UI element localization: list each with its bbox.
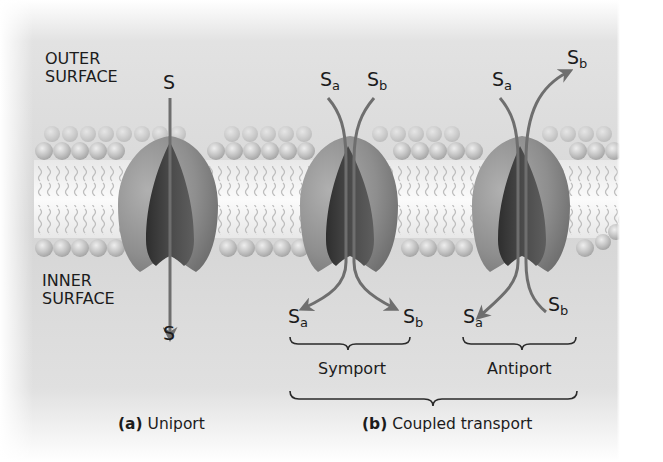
membrane-transport-diagram: OUTER SURFACE INNER SURFACE S S Sa Sb Sa…: [0, 0, 663, 462]
antiport-substrate-a-top: Sa: [492, 68, 512, 93]
uniport-caption-letter: (a): [118, 415, 143, 433]
outer-label-line1: OUTER: [45, 50, 118, 68]
symport-substrate-b-bottom: Sb: [403, 305, 423, 330]
antiport-substrate-b-bottom: Sb: [548, 293, 568, 318]
coupled-caption-letter: (b): [362, 415, 387, 433]
outer-label-line2: SURFACE: [45, 68, 118, 86]
symport-label: Symport: [318, 360, 386, 378]
inner-label-line1: INNER: [42, 272, 115, 290]
coupled-caption-text: Coupled transport: [387, 415, 532, 433]
uniport-substrate-top: S: [163, 71, 175, 93]
inner-label-line2: SURFACE: [42, 290, 115, 308]
symport-substrate-b-top: Sb: [367, 68, 387, 93]
uniport-caption-text: Uniport: [143, 415, 205, 433]
outer-surface-label: OUTER SURFACE: [45, 50, 118, 86]
coupled-transport-caption: (b) Coupled transport: [362, 415, 532, 433]
symport-substrate-a-top: Sa: [320, 68, 340, 93]
antiport-substrate-b-top: Sb: [567, 46, 587, 71]
antiport-label: Antiport: [487, 360, 552, 378]
symport-substrate-a-bottom: Sa: [288, 305, 308, 330]
antiport-substrate-a-bottom: Sa: [463, 305, 483, 330]
inner-surface-label: INNER SURFACE: [42, 272, 115, 308]
uniport-caption: (a) Uniport: [118, 415, 205, 433]
uniport-substrate-bottom: S: [163, 322, 175, 344]
